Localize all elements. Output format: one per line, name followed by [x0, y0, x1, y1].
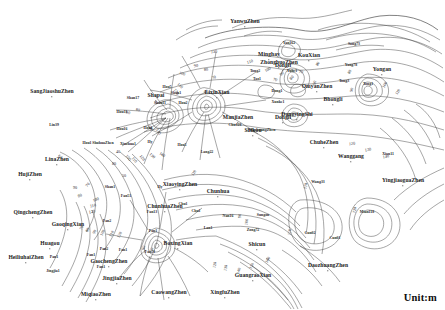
place-label-caowang-zhen[interactable]: CaowangZhen: [151, 290, 186, 296]
well-label-xunke1-29[interactable]: Xunke1: [272, 101, 285, 105]
place-label-chunhua-zhen[interactable]: ChunhuaZhen: [147, 204, 182, 210]
well-label-nan16-41[interactable]: Nan16: [223, 215, 234, 219]
contour-value-label: 90: [279, 71, 285, 77]
well-label-zong72-42[interactable]: Zong72: [247, 229, 260, 233]
well-label-sungon-43[interactable]: Sungon: [257, 214, 270, 218]
well-label-fan1-47[interactable]: Fan1: [119, 249, 127, 253]
contour-value-label: 80: [289, 75, 295, 81]
place-label-qingcheng-zhen[interactable]: QingchengZhen: [14, 210, 53, 216]
well-label-fan2-4[interactable]: Fan2: [103, 220, 111, 224]
place-label-xingfu-zhen[interactable]: XingfuZhen: [210, 290, 239, 296]
well-label-chu1-38[interactable]: Chu1: [178, 203, 187, 207]
well-label-shan11-16[interactable]: Shan11: [154, 102, 166, 106]
place-label-heiliuhai-zhen[interactable]: HeiliuhaiZhen: [8, 255, 43, 261]
place-label-kou-xian[interactable]: KouXian: [298, 53, 320, 59]
place-label-huji-zhen[interactable]: HujiZhen: [18, 172, 42, 178]
well-label-cun02-37[interactable]: Cun02: [304, 232, 315, 236]
well-label-lan1-40[interactable]: Lan1: [204, 227, 213, 231]
place-label-dongying-shi[interactable]: DongyingShi: [281, 112, 312, 118]
place-label-dongli[interactable]: Dongli: [275, 63, 291, 69]
well-label-song73-32[interactable]: Song73: [348, 43, 360, 47]
place-label-yanwu-zhen[interactable]: YanwuZhen: [230, 19, 259, 25]
well-label-hou2-19[interactable]: Hou2: [178, 102, 187, 106]
well-label-chu128-22[interactable]: Chu128: [229, 124, 242, 128]
well-label-hou5-20[interactable]: Hou5: [177, 144, 186, 148]
place-label-manjia-zhen[interactable]: ManjiaZhen: [223, 115, 253, 121]
contour-value-label: 110: [288, 229, 293, 236]
well-label-yan162-24[interactable]: Yan162: [283, 42, 295, 46]
contour-value-label: 90: [92, 229, 98, 235]
contour-value-label: 130: [223, 264, 228, 271]
place-label-sang-jiaoshu-zhen[interactable]: SangJiaoshuZhen: [30, 89, 73, 95]
well-label-shan1-48[interactable]: Shan1: [105, 186, 115, 190]
well-label-fan1-45[interactable]: Fan1: [87, 254, 95, 258]
place-label-xiaoying-zhen[interactable]: XiaoyingZhen: [163, 182, 197, 188]
place-label-omyan-zhen[interactable]: OmyanZhen: [302, 84, 333, 90]
well-label-fan1-46[interactable]: Fan1: [97, 266, 105, 270]
well-label-tong1-33[interactable]: Tong1: [363, 83, 373, 87]
place-label-chuhe-zhen[interactable]: ChuheZhen: [310, 140, 339, 146]
place-label-miqiao-zhen[interactable]: MiqiaoZhen: [81, 292, 111, 298]
place-marker-chuhe-zhen: [323, 147, 324, 148]
place-label-bhongli[interactable]: Bhongli: [323, 97, 342, 103]
well-label-cun01-44[interactable]: Cun01: [329, 237, 340, 241]
place-label-daozhuang-zhen[interactable]: DaozhuangZhen: [308, 263, 348, 269]
contour-value-label: 130: [365, 147, 372, 152]
well-label-fan51-5[interactable]: Fan51: [121, 195, 131, 199]
contour-value-label: 110: [109, 230, 116, 237]
contour-value-label: 120: [138, 154, 145, 162]
place-marker-caowang-zhen: [168, 297, 169, 298]
place-label-jingjia-zhen[interactable]: JingjiaZhen: [102, 276, 131, 282]
contour-value-label: 90: [349, 87, 354, 92]
well-label-wuzhuang-zhen-23[interactable]: WuzhuangZhen: [249, 129, 276, 133]
well-label-yuhe1-27[interactable]: Yuhe1: [287, 70, 297, 74]
contour-value-label: 70: [211, 75, 216, 80]
well-label-pan1-1[interactable]: Pan1: [50, 256, 58, 260]
place-label-chunhua[interactable]: Chunhua: [207, 189, 230, 195]
contour-value-label: 80: [112, 162, 116, 166]
well-label-shuhua-zhen-10[interactable]: ShuhuaZhen: [92, 142, 113, 146]
well-label-xinzhua1-11[interactable]: Xinzhua1: [120, 143, 136, 147]
well-label-wang33-35[interactable]: Wang33: [311, 181, 325, 185]
well-label-pan2-3[interactable]: Pan2: [100, 248, 108, 252]
well-label-dong1-28[interactable]: Dong1: [272, 90, 283, 94]
map-label-layer: SangJiaoshuZhenLinaZhenHujiZhenQingcheng…: [0, 0, 445, 310]
place-marker-chunhua-zhen: [164, 211, 165, 212]
place-label-guangrao-xian[interactable]: GuangraoXian: [235, 273, 271, 279]
well-label-lang22-21[interactable]: Lang22: [201, 151, 214, 155]
place-label-wanggang[interactable]: Wanggang: [338, 154, 364, 160]
well-label-jingjia1-2[interactable]: Jingjia1: [46, 270, 59, 274]
place-label-boxing-xian[interactable]: BoxingXian: [164, 241, 193, 247]
place-label-shapai[interactable]: Shapai: [148, 93, 165, 99]
place-marker-qingcheng-zhen: [32, 217, 33, 218]
contour-value-label: 100: [178, 71, 185, 77]
well-label-yang78-31[interactable]: Yang78: [345, 64, 357, 68]
contour-value-label: 130: [211, 50, 218, 55]
well-label-hou5-18[interactable]: Hou5: [162, 86, 171, 90]
place-label-yingjiaogua-zhen[interactable]: YingjiaoguaZhen: [382, 178, 424, 184]
place-label-yongan[interactable]: Yongan: [373, 67, 391, 73]
contour-value-label: 80: [315, 61, 321, 67]
place-label-minghay[interactable]: Minghay: [258, 52, 280, 58]
place-label-gaocheng-zhen[interactable]: GaochengZhen: [91, 259, 128, 265]
place-marker-huji-zhen: [29, 179, 30, 180]
well-label-lin39-0[interactable]: Lin39: [49, 124, 59, 128]
well-label-chu1-39[interactable]: Chu1: [191, 210, 200, 214]
contour-value-label: 100: [100, 229, 107, 237]
place-label-huagou[interactable]: Huagou: [40, 241, 59, 247]
contour-value-label: 50: [122, 174, 126, 178]
well-label-pan1-8[interactable]: Pan1: [149, 230, 157, 234]
well-label-fan13-6[interactable]: Fan13: [147, 211, 157, 215]
well-label-tao1-26[interactable]: Tao1: [253, 78, 261, 82]
well-label-mian118-36[interactable]: Mian118: [360, 211, 374, 215]
well-label-hy-49[interactable]: Hy: [158, 186, 163, 190]
place-label-shicun[interactable]: Shicun: [249, 242, 266, 248]
place-marker-gaoqing-xian: [67, 229, 68, 230]
well-label-tong2-25[interactable]: Tong2: [250, 70, 260, 74]
well-label-hou16-12[interactable]: Hou16: [116, 128, 127, 132]
well-label-hou1-9[interactable]: Hou1: [82, 142, 91, 146]
well-label-shan17-15[interactable]: Shan17: [127, 97, 139, 101]
well-label-hy-50[interactable]: Hy: [148, 141, 153, 145]
place-marker-heiliuhai-zhen: [25, 262, 26, 263]
well-label-tong3-30[interactable]: Tong3: [339, 80, 349, 84]
